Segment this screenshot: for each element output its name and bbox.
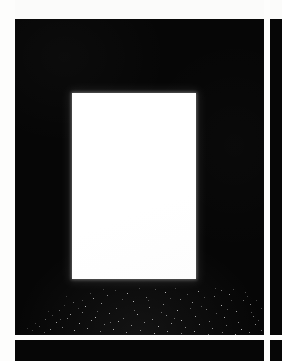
speck [148, 300, 149, 301]
speck [45, 319, 46, 320]
contact-sheet: Contact sheet frame [0, 0, 282, 361]
window-sheen [72, 93, 196, 279]
speck [109, 313, 110, 314]
speck [116, 308, 117, 309]
speck [231, 300, 232, 301]
speck [133, 301, 134, 302]
speck [245, 292, 246, 293]
speck [134, 310, 135, 311]
speck [258, 320, 259, 321]
speck [158, 326, 159, 327]
speck [221, 305, 222, 306]
photo-frame-right [270, 19, 282, 335]
speck [175, 288, 176, 289]
speckle-field [15, 288, 264, 335]
speck [209, 321, 210, 322]
left-margin-strip [0, 0, 15, 361]
speck [113, 329, 114, 330]
speck [74, 330, 75, 331]
speck [253, 316, 254, 317]
speck [167, 331, 168, 332]
speck [195, 316, 196, 317]
speck [177, 310, 178, 311]
speck [165, 292, 166, 293]
speck [198, 291, 199, 292]
speck [66, 296, 67, 297]
speck [163, 304, 164, 305]
speck [56, 322, 57, 323]
speck [85, 306, 86, 307]
speck [95, 317, 96, 318]
speck [82, 312, 83, 313]
speck [233, 289, 234, 290]
speck [181, 320, 182, 321]
speck [192, 302, 193, 303]
speck [155, 289, 156, 290]
vertical-gutter [264, 0, 270, 361]
speck [174, 318, 175, 319]
speck [44, 332, 45, 333]
speck [79, 323, 80, 324]
speck [187, 294, 188, 295]
speck [110, 322, 111, 323]
speck [261, 308, 262, 309]
speck [247, 296, 248, 297]
speck [212, 328, 213, 329]
speck [261, 330, 262, 331]
photo-frame-bottom [15, 340, 264, 361]
speck [100, 331, 101, 332]
speck [52, 315, 53, 316]
speck [194, 331, 195, 332]
speck [199, 324, 200, 325]
photo-frame-main [15, 19, 264, 335]
speck [35, 323, 36, 324]
speck [137, 314, 138, 315]
speck [126, 332, 127, 333]
speck [107, 295, 108, 296]
speck [201, 306, 202, 307]
speck [101, 303, 102, 304]
speck [243, 300, 244, 301]
speck [144, 322, 145, 323]
speck [251, 312, 252, 313]
speck [185, 327, 186, 328]
blown-out-window [72, 93, 196, 279]
speck [27, 328, 28, 329]
speck [180, 299, 181, 300]
speck [140, 330, 141, 331]
speck [39, 326, 40, 327]
speck [59, 310, 60, 311]
speck [256, 300, 257, 301]
speck [152, 319, 153, 320]
speck [146, 297, 147, 298]
speck [73, 302, 74, 303]
speck [236, 311, 237, 312]
speck [87, 328, 88, 329]
speck [149, 307, 150, 308]
speck [221, 290, 222, 291]
speck [82, 300, 83, 301]
speck [127, 293, 128, 294]
speck [139, 288, 140, 289]
speck [255, 324, 256, 325]
speck [170, 298, 171, 299]
speck [161, 312, 162, 313]
speck [190, 308, 191, 309]
speck [60, 319, 61, 320]
speck [64, 305, 65, 306]
speck [97, 311, 98, 312]
speck [115, 290, 116, 291]
speck [131, 325, 132, 326]
speck [104, 324, 105, 325]
speck [32, 330, 33, 331]
speck [241, 329, 242, 330]
horizontal-gutter [0, 335, 282, 340]
speck [70, 314, 71, 315]
speck [67, 318, 68, 319]
speck [166, 315, 167, 316]
speck [103, 289, 104, 290]
speck [91, 320, 92, 321]
speck [48, 311, 49, 312]
speck [215, 288, 216, 289]
speck [238, 322, 239, 323]
